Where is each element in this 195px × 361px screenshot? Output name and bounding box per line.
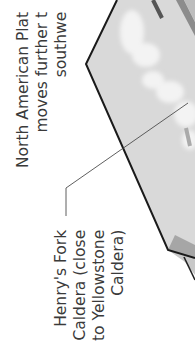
plate-motion-line-2: moves further t [33,12,52,168]
caldera-line-3: to Yellowstone [90,230,109,341]
plate-motion-label: North American Plat moves further t sout… [14,12,71,168]
plate-motion-line-1: North American Plat [14,12,33,168]
caldera-line-2: Caldera (close [71,230,90,341]
caldera-line-4: Caldera) [109,230,128,341]
henrys-fork-caldera-label: Henry's Fork Caldera (close to Yellowsto… [52,230,128,341]
plate-motion-line-3: southwe [52,12,71,168]
caldera-line-1: Henry's Fork [52,230,71,341]
block-diagram: North American Plat moves further t sout… [0,0,195,361]
